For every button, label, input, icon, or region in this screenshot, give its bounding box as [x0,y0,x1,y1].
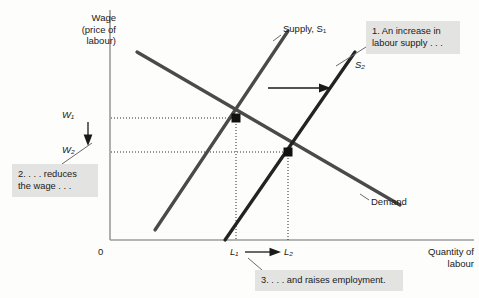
note-3-leader-line [248,258,262,270]
demand-label-leader [360,194,369,200]
supply-curve-s2-label: S₂ [355,59,365,71]
demand-curve [137,52,400,205]
supply-curve-s1-label: Supply, S₁ [283,23,326,35]
annotation-box-1: 1. An increase in labour supply . . . [366,21,460,54]
equilibrium-point-1 [232,114,241,123]
y-tick-label-w2: W₂ [62,144,75,156]
y-axis-title: Wage (price of labour) [64,12,116,47]
annotation-box-3: 3. . . . and raises employment. [255,270,403,291]
demand-curve-label: Demand [371,196,407,208]
supply1-label-leader [273,35,281,41]
supply-curve-s2 [225,52,355,240]
annotation-box-2: 2. . . . reduces the wage . . . [12,164,98,197]
supply-curve-s1 [155,31,288,230]
employment-increase-arrow-head [270,248,282,256]
x-tick-label-l1: L₁ [230,246,238,258]
y-tick-label-w1: W₁ [62,109,74,121]
supply-demand-figure: Wage (price of labour) Quantity of labou… [0,0,479,298]
origin-label: 0 [98,246,103,258]
wage-decrease-arrow-head [84,135,93,147]
equilibrium-point-2 [284,148,293,157]
x-tick-label-l2: L₂ [284,246,293,258]
x-axis-title: Quantity of labour [400,246,474,269]
